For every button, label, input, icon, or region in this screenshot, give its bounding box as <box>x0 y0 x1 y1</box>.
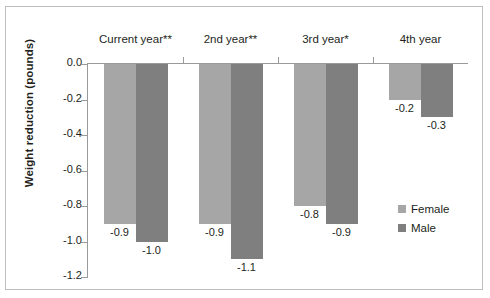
data-label-male-1: -1.0 <box>129 244 175 256</box>
plot-area: -0.9-1.0-0.9-1.1-0.8-0.9-0.2-0.3 <box>88 64 468 277</box>
bar-male-1 <box>136 64 168 242</box>
y-tick-label: -0.8 <box>36 198 82 210</box>
bar-male-2 <box>231 64 263 259</box>
category-label: 4th year <box>363 33 478 45</box>
legend-item-male: Male <box>398 218 449 237</box>
legend-label-male: Male <box>411 222 436 234</box>
y-tick-mark <box>81 135 87 136</box>
y-tick-label: -0.2 <box>36 92 82 104</box>
y-tick-mark <box>81 242 87 243</box>
y-tick-label: -0.4 <box>36 127 82 139</box>
legend-swatch-male <box>398 224 406 232</box>
data-label-male-3: -0.9 <box>319 226 365 238</box>
data-label-male-4: -0.3 <box>414 119 460 131</box>
y-axis-tick-labels: 0.0-0.2-0.4-0.6-0.8-1.0-1.2 <box>32 7 82 298</box>
bar-female-2 <box>199 64 231 224</box>
legend-label-female: Female <box>411 203 449 215</box>
x-tick-mark <box>278 57 279 63</box>
y-tick-label: -1.2 <box>36 269 82 281</box>
x-tick-mark <box>183 57 184 63</box>
y-tick-mark <box>81 277 87 278</box>
y-tick-label: 0.0 <box>36 56 82 68</box>
chart-legend: Female Male <box>398 199 449 237</box>
y-tick-mark <box>81 171 87 172</box>
legend-item-female: Female <box>398 199 449 218</box>
y-tick-label: -1.0 <box>36 234 82 246</box>
bar-female-3 <box>294 64 326 206</box>
y-tick-mark <box>81 206 87 207</box>
chart-frame: Weight reduction (pounds) 0.0-0.2-0.4-0.… <box>5 6 483 290</box>
x-tick-mark <box>373 57 374 63</box>
y-tick-label: -0.6 <box>36 163 82 175</box>
bar-female-4 <box>389 64 421 100</box>
data-label-male-2: -1.1 <box>224 261 270 273</box>
bar-female-1 <box>104 64 136 224</box>
legend-swatch-female <box>398 205 406 213</box>
bar-male-4 <box>421 64 453 117</box>
bar-male-3 <box>326 64 358 224</box>
y-tick-mark <box>81 100 87 101</box>
y-tick-mark <box>81 64 87 65</box>
